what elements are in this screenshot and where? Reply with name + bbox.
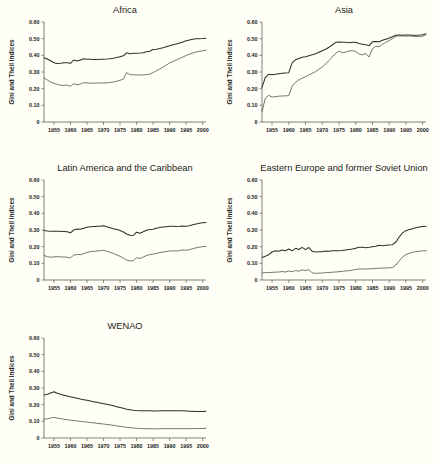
x-tick-label: 2000	[197, 285, 209, 291]
y-axis-label: Gini and Theil Indices	[8, 197, 15, 263]
series-line-theil	[44, 246, 206, 261]
series-line-gini	[262, 226, 426, 257]
y-tick-label: 0.30	[247, 69, 258, 75]
y-tick-label: 0	[37, 119, 40, 125]
x-tick-label: 1965	[81, 443, 93, 449]
x-tick-label: 1990	[383, 127, 395, 133]
x-tick-label: 1980	[350, 285, 362, 291]
series-line-gini	[44, 392, 206, 412]
axis-lines	[262, 22, 426, 122]
x-tick-label: 1960	[283, 127, 295, 133]
x-tick-label: 1965	[300, 127, 312, 133]
y-axis-label: Gini and Theil Indices	[226, 39, 233, 105]
x-tick-label: 1960	[64, 443, 76, 449]
x-tick-label: 1955	[48, 443, 60, 449]
x-tick-label: 2000	[197, 127, 209, 133]
x-tick-label: 1995	[400, 285, 412, 291]
y-tick-label: 0.10	[29, 260, 40, 266]
x-tick-label: 1990	[164, 443, 176, 449]
x-tick-label: 1990	[164, 127, 176, 133]
y-tick-label: 0.20	[29, 244, 40, 250]
chart-panel-5: WENAOGini and Theil Indices0.600.500.400…	[0, 316, 218, 465]
y-tick-label: 0	[255, 119, 258, 125]
y-tick-label: 0.30	[29, 69, 40, 75]
x-tick-label: 1965	[300, 285, 312, 291]
x-tick-label: 1975	[333, 285, 345, 291]
panel-title: Asia	[335, 5, 354, 15]
y-tick-label: 0.60	[247, 177, 258, 183]
x-tick-label: 1970	[98, 127, 110, 133]
y-tick-label: 0.60	[29, 19, 40, 25]
x-tick-label: 1970	[316, 285, 328, 291]
x-tick-label: 1960	[64, 127, 76, 133]
x-tick-label: 1980	[350, 127, 362, 133]
y-tick-label: 0.60	[29, 335, 40, 341]
x-tick-label: 1985	[366, 285, 378, 291]
y-tick-label: 0.50	[247, 36, 258, 42]
axis-lines	[44, 338, 206, 438]
y-tick-label: 0.20	[247, 86, 258, 92]
chart-panel-4: Eastern Europe and former Soviet UnionGi…	[218, 158, 438, 313]
axis-lines	[44, 22, 206, 122]
x-tick-label: 1975	[114, 127, 126, 133]
x-tick-label: 1975	[114, 443, 126, 449]
series-line-theil	[44, 417, 206, 429]
figure-panel-grid: AfricaGini and Theil Indices0.600.500.40…	[0, 0, 438, 465]
series-line-gini	[44, 38, 206, 63]
y-axis-label: Gini and Theil Indices	[8, 355, 15, 421]
x-tick-label: 1970	[98, 443, 110, 449]
x-tick-label: 1985	[147, 443, 159, 449]
y-tick-label: 0.60	[247, 19, 258, 25]
x-tick-label: 1975	[114, 285, 126, 291]
x-tick-label: 1980	[131, 127, 143, 133]
y-tick-label: 0	[37, 435, 40, 441]
x-tick-label: 1975	[333, 127, 345, 133]
y-tick-label: 0.40	[29, 368, 40, 374]
x-tick-label: 1955	[48, 285, 60, 291]
series-line-theil	[262, 251, 426, 274]
x-tick-label: 1985	[147, 127, 159, 133]
y-tick-label: 0.20	[29, 402, 40, 408]
x-tick-label: 1960	[64, 285, 76, 291]
x-tick-label: 1990	[164, 285, 176, 291]
x-tick-label: 1995	[180, 443, 192, 449]
y-tick-label: 0.30	[247, 227, 258, 233]
x-tick-label: 1965	[81, 285, 93, 291]
y-tick-label: 0	[37, 277, 40, 283]
chart-panel-1: AfricaGini and Theil Indices0.600.500.40…	[0, 0, 218, 155]
y-tick-label: 0.10	[247, 102, 258, 108]
x-tick-label: 1995	[400, 127, 412, 133]
x-tick-label: 1955	[266, 285, 278, 291]
x-tick-label: 1955	[266, 127, 278, 133]
chart-panel-2: AsiaGini and Theil Indices0.600.500.400.…	[218, 0, 438, 155]
panel-title: Eastern Europe and former Soviet Union	[260, 163, 427, 173]
x-tick-label: 1980	[131, 285, 143, 291]
series-line-theil	[44, 50, 206, 86]
panel-title: Latin America and the Caribbean	[57, 163, 192, 173]
x-tick-label: 1985	[147, 285, 159, 291]
x-tick-label: 1985	[366, 127, 378, 133]
y-tick-label: 0.50	[247, 194, 258, 200]
y-tick-label: 0.10	[29, 102, 40, 108]
series-line-gini	[262, 34, 426, 88]
series-line-gini	[44, 223, 206, 236]
y-tick-label: 0.30	[29, 227, 40, 233]
x-tick-label: 1955	[48, 127, 60, 133]
chart-panel-3: Latin America and the CaribbeanGini and …	[0, 158, 218, 313]
y-tick-label: 0	[255, 277, 258, 283]
x-tick-label: 1960	[283, 285, 295, 291]
y-tick-label: 0.40	[29, 52, 40, 58]
y-axis-label: Gini and Theil Indices	[226, 197, 233, 263]
y-tick-label: 0.10	[247, 260, 258, 266]
axis-lines	[262, 180, 426, 280]
axis-lines	[44, 180, 206, 280]
y-tick-label: 0.40	[29, 210, 40, 216]
x-tick-label: 1990	[383, 285, 395, 291]
y-tick-label: 0.40	[247, 210, 258, 216]
x-tick-label: 1970	[98, 285, 110, 291]
y-tick-label: 0.50	[29, 352, 40, 358]
y-axis-label: Gini and Theil Indices	[8, 39, 15, 105]
y-tick-label: 0.20	[29, 86, 40, 92]
x-tick-label: 1995	[180, 127, 192, 133]
y-tick-label: 0.20	[247, 244, 258, 250]
